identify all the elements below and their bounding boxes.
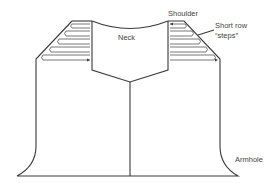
- left-short-rows: [42, 24, 91, 62]
- body-outline: [17, 21, 238, 176]
- neck-curve: [92, 21, 168, 29]
- garment-outline: [17, 21, 238, 176]
- sweater-diagram: Neck Shoulder Short row “steps” Armhole: [0, 0, 276, 185]
- short-row-label-line1: Short row: [215, 21, 248, 30]
- arrow-icon: [87, 59, 90, 62]
- arrow-icon: [170, 23, 173, 26]
- arrow-icon: [215, 59, 218, 62]
- neck-front-panel: [92, 21, 168, 82]
- leader-line: [198, 30, 214, 35]
- armhole-label: Armhole: [235, 155, 263, 164]
- right-short-rows: [170, 23, 218, 62]
- shoulder-label: Shoulder: [168, 9, 199, 18]
- short-row-label-line2: “steps”: [215, 31, 238, 40]
- neck-label: Neck: [118, 33, 135, 42]
